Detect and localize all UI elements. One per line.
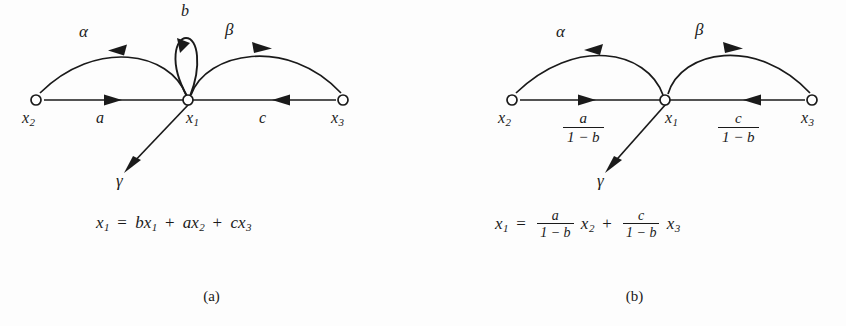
- edge-label-alpha: α: [556, 23, 565, 40]
- node-label-x1: x1: [665, 110, 678, 126]
- node-x3[interactable]: [807, 95, 817, 105]
- panel-a: x2 x1 x3 a c α β b γ x1 = bx1 + ax2 + cx…: [0, 0, 423, 326]
- equation-a-term2: ax2: [183, 213, 205, 232]
- node-x2[interactable]: [507, 95, 517, 105]
- edge-gamma-arrowhead: [605, 156, 622, 173]
- equation-b-equals: =: [512, 214, 530, 233]
- node-label-x1: x1: [186, 110, 199, 126]
- edge-label-beta: β: [695, 21, 703, 38]
- edge-a-arrowhead: [104, 95, 122, 106]
- caption-b: (b): [423, 288, 846, 305]
- node-x1[interactable]: [183, 95, 193, 105]
- equation-b-var2: x3: [667, 214, 680, 233]
- edge-beta-arc: [668, 55, 810, 94]
- graph-a: [0, 0, 423, 200]
- edge-label-b: b: [181, 3, 189, 19]
- edge-label-beta: β: [225, 21, 233, 38]
- edge-gamma-line: [130, 104, 189, 166]
- signal-flow-graph-figure: x2 x1 x3 a c α β b γ x1 = bx1 + ax2 + cx…: [0, 0, 846, 326]
- edge-label-c: c: [259, 110, 266, 126]
- edge-alpha-arc: [40, 57, 186, 95]
- graph-b: [423, 0, 846, 200]
- node-label-x3: x3: [801, 110, 814, 126]
- node-x3[interactable]: [338, 95, 348, 105]
- equation-b: x1 = a 1 − b x2 + c 1 − b x3: [495, 208, 680, 241]
- edge-gamma-arrowhead: [124, 156, 141, 173]
- panel-b: x2 x1 x3 a 1 − b c 1 − b α β γ x1 = a 1 …: [423, 0, 846, 326]
- edge-b-self-loop: [175, 38, 197, 96]
- equation-b-frac2: c 1 − b: [623, 208, 659, 241]
- edge-beta-arc: [191, 56, 341, 95]
- node-label-x3: x3: [331, 110, 344, 126]
- caption-a: (a): [0, 288, 423, 305]
- edge-b-arrowhead: [177, 38, 190, 53]
- node-x1[interactable]: [660, 95, 670, 105]
- edge-alpha-arrowhead: [584, 44, 603, 55]
- node-label-x2: x2: [498, 110, 511, 126]
- edge-a-arrowhead: [578, 95, 596, 106]
- edge-label-a: a: [96, 110, 104, 126]
- equation-b-frac1: a 1 − b: [537, 208, 573, 241]
- edge-label-gamma: γ: [597, 172, 604, 189]
- equation-a-lhs: x: [96, 213, 104, 232]
- equation-a-term3: cx3: [230, 213, 251, 232]
- edge-c-arrowhead: [743, 95, 761, 106]
- equation-a-term1: bx1: [135, 213, 157, 232]
- node-x2[interactable]: [31, 95, 41, 105]
- node-label-x2: x2: [22, 110, 35, 126]
- edge-label-alpha: α: [79, 23, 88, 40]
- edge-label-gamma: γ: [116, 172, 123, 189]
- edge-alpha-arc: [516, 56, 663, 95]
- edge-label-c-over-1-minus-b: c 1 − b: [718, 110, 759, 146]
- edge-alpha-arrowhead: [108, 45, 127, 56]
- equation-b-lhs: x: [495, 214, 503, 233]
- edge-beta-arrowhead: [723, 42, 743, 53]
- edge-beta-arrowhead: [252, 42, 272, 53]
- equation-a: x1 = bx1 + ax2 + cx3: [96, 213, 251, 233]
- equation-a-equals: =: [113, 213, 131, 232]
- edge-c-arrowhead: [272, 95, 290, 106]
- equation-b-var1: x2: [581, 214, 594, 233]
- edge-gamma-line: [611, 104, 666, 166]
- edge-label-a-over-1-minus-b: a 1 − b: [563, 110, 604, 146]
